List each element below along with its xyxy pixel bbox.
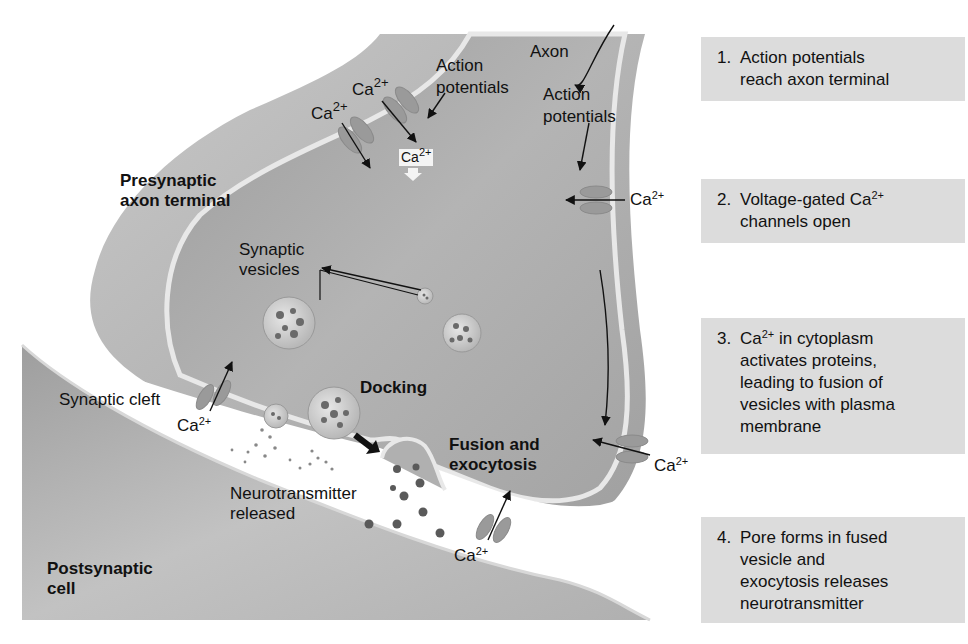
label-ca-4: Ca2+ (177, 416, 211, 436)
label-ca-cytoplasm: Ca2+ (399, 149, 433, 166)
label-synaptic-cleft: Synaptic cleft (59, 390, 160, 410)
label-axon: Axon (530, 42, 569, 62)
label-presynaptic: Presynaptic axon terminal (120, 171, 231, 211)
step-4-text: Pore forms in fused vesicle and exocytos… (740, 527, 957, 615)
label-synaptic-vesicles: Synaptic vesicles (239, 240, 304, 280)
step-3-text: Ca2+ in cytoplasm activates proteins, le… (740, 328, 957, 438)
label-ca-1: Ca2+ (311, 104, 348, 124)
label-ca-3: Ca2+ (630, 190, 664, 210)
label-action-potentials-1: Action potentials (436, 55, 509, 99)
step-2-box: 2. Voltage-gated Ca2+ channels open (701, 179, 965, 243)
step-4-box: 4. Pore forms in fused vesicle and exocy… (701, 517, 965, 623)
label-postsynaptic: Postsynaptic cell (47, 559, 153, 599)
synapse-diagram: Presynaptic axon terminal Axon Action po… (0, 0, 968, 644)
step-3-box: 3. Ca2+ in cytoplasm activates proteins,… (701, 318, 965, 454)
label-ca-5: Ca2+ (654, 456, 688, 476)
label-action-potentials-2: Action potentials (543, 84, 616, 128)
label-ca-2: Ca2+ (352, 80, 389, 100)
step-1-box: 1. Action potentials reach axon terminal (701, 37, 965, 101)
label-neurotransmitter-released: Neurotransmitter released (230, 484, 357, 524)
label-fusion-exocytosis: Fusion and exocytosis (449, 435, 540, 475)
label-docking: Docking (360, 378, 427, 398)
step-2-text: Voltage-gated Ca2+ channels open (740, 189, 957, 233)
step-1-text: Action potentials reach axon terminal (740, 47, 957, 91)
label-ca-6: Ca2+ (454, 546, 488, 566)
